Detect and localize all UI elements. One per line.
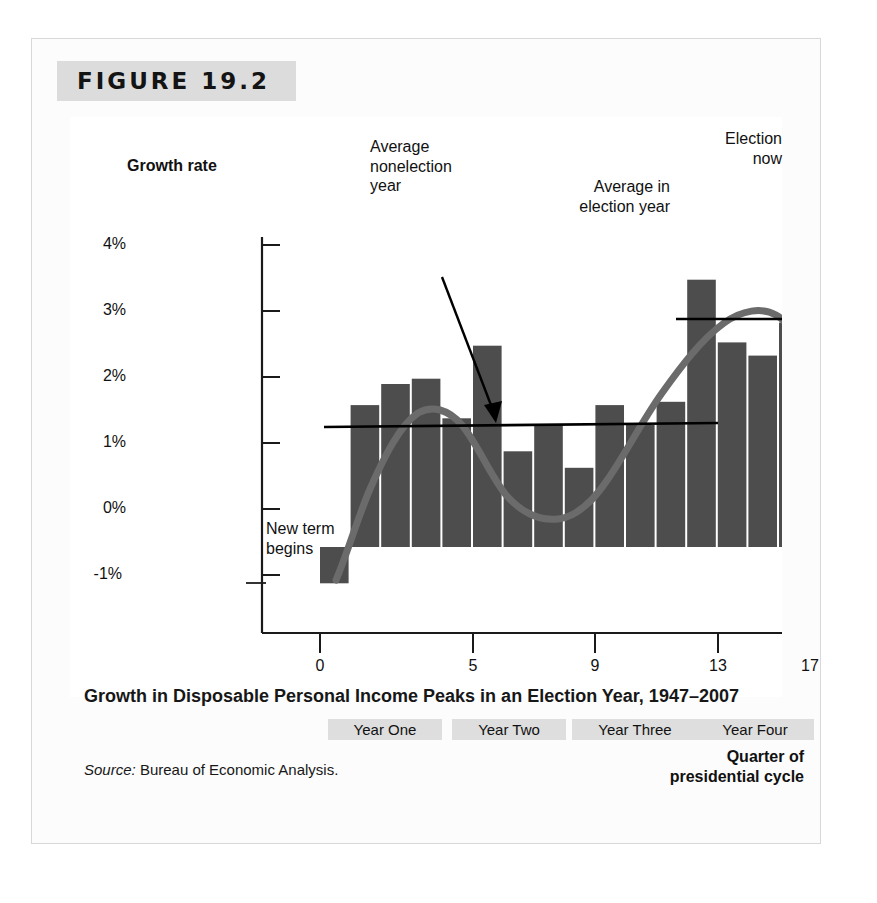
year-group-two: Year Two [452,719,566,740]
bar-q8 [534,425,563,547]
annotation-new-term-begins-line2: begins [266,539,334,559]
annotation-average-in-election-year-line2: election year [480,197,670,217]
figure-source: Source: Bureau of Economic Analysis. [84,761,774,778]
annotation-average-nonelection-year: Average nonelection year [370,137,452,196]
figure-caption: Growth in Disposable Personal Income Pea… [84,684,774,708]
y-tick-label-0: 0% [80,499,126,517]
source-text: Bureau of Economic Analysis. [140,761,338,778]
chart-area: Growth rate 4% 3% 2% 1% 0% -1% [70,117,782,697]
bar-q3 [381,384,410,547]
year-group-three: Year Three [572,719,698,740]
y-axis-title: Growth rate [127,157,217,175]
figure-card: FIGURE 19.2 Growth rate 4% 3% 2% 1% 0% -… [31,38,821,844]
y-tick-label-neg1: -1% [76,565,122,583]
annotation-election-now-line2: now [666,149,782,169]
bar-series [320,280,782,584]
y-tick-label-3: 3% [80,301,126,319]
y-tick-label-1: 1% [80,433,126,451]
figure-number-label: FIGURE 19.2 [57,61,296,101]
bar-q16 [779,323,782,547]
annotation-election-now: Election now [666,129,782,168]
year-group-four: Year Four [696,719,814,740]
chart-panel: Growth rate 4% 3% 2% 1% 0% -1% [70,117,782,697]
annotation-average-nonelection-year-line1: Average [370,137,452,157]
bar-q14 [718,342,747,547]
y-tick-label-4: 4% [80,235,126,253]
x-tick-label-9: 9 [575,657,615,675]
bar-q15 [748,356,777,547]
x-tick-label-0: 0 [300,657,340,675]
y-tick-label-2: 2% [80,367,126,385]
x-tick-label-17: 17 [790,657,830,675]
annotation-average-in-election-year: Average in election year [480,177,670,216]
annotation-average-in-election-year-line1: Average in [480,177,670,197]
annotation-average-nonelection-year-line3: year [370,176,452,196]
x-tick-label-5: 5 [453,657,493,675]
year-group-one: Year One [328,719,442,740]
annotation-election-now-line1: Election [666,129,782,149]
page-gutter [0,0,12,903]
x-axis-ticks [320,633,782,653]
figure-page: FIGURE 19.2 Growth rate 4% 3% 2% 1% 0% -… [0,0,877,903]
x-tick-label-13: 13 [698,657,738,675]
annotation-new-term-begins-line1: New term [266,519,334,539]
source-label: Source: [84,761,136,778]
bar-q4 [412,379,441,547]
annotation-average-nonelection-year-line2: nonelection [370,157,452,177]
chart-plot-svg [70,117,782,697]
annotation-new-term-begins: New term begins [266,519,334,558]
